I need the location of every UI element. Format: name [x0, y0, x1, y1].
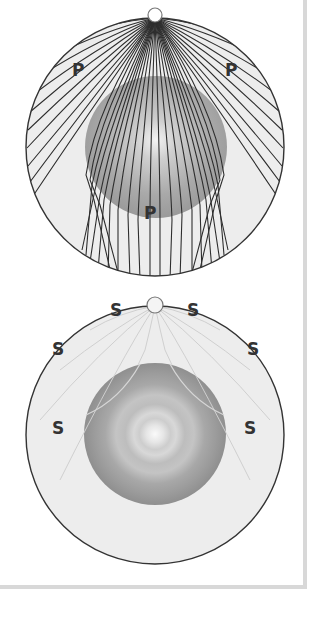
p-wave-diagram: P P P: [26, 8, 284, 281]
s-label-top-right: S: [187, 300, 199, 320]
p-label-core-bottom: P: [144, 203, 156, 223]
s-earth-core: [84, 363, 226, 505]
s-label-top-left: S: [110, 300, 122, 320]
p-seismic-station-icon: [148, 8, 162, 22]
s-label-left: S: [52, 339, 64, 359]
p-label-upper-right: P: [225, 60, 237, 80]
p-label-upper-left: P: [72, 60, 84, 80]
s-seismic-station-icon: [147, 297, 163, 313]
s-wave-diagram: S S S S S S: [26, 297, 284, 564]
seismic-wave-diagram: P P P S S S S S S: [0, 0, 315, 620]
s-label-mid-right: S: [244, 418, 256, 438]
s-label-right: S: [247, 339, 259, 359]
s-label-mid-left: S: [52, 418, 64, 438]
